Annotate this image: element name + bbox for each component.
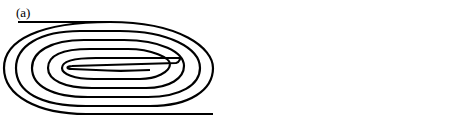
panel-a: (a) [4,5,213,114]
diagram-canvas: (a) [0,0,457,127]
panel-a-label: (a) [16,5,30,20]
strand-a-10 [4,22,213,114]
strand-a-0 [16,22,213,106]
